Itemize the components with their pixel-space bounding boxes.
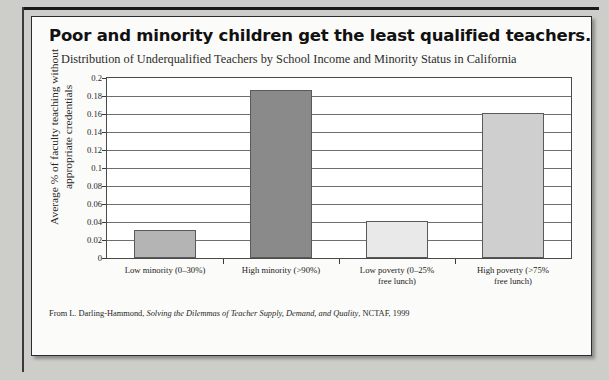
bar bbox=[250, 90, 311, 258]
x-axis-tick-label-line: Low minority (0–30%) bbox=[107, 265, 223, 276]
y-axis-tick-label: 0.14 bbox=[58, 127, 102, 137]
bar bbox=[366, 221, 427, 258]
y-axis-tick-label: 0 bbox=[58, 253, 102, 263]
x-axis-tick-label-line: Low poverty (0–25% bbox=[339, 265, 455, 276]
x-axis-tick-label-line: free lunch) bbox=[455, 276, 571, 287]
y-axis-tick-label: 0.16 bbox=[58, 109, 102, 119]
x-axis-tick-label-line: High poverty (>75% bbox=[455, 265, 571, 276]
y-axis-tick-label: 0.06 bbox=[58, 199, 102, 209]
gridline bbox=[107, 96, 571, 97]
page-canvas: Poor and minority children get the least… bbox=[0, 0, 609, 380]
y-axis-tick-label: 0.2 bbox=[58, 73, 102, 83]
bar bbox=[482, 113, 543, 258]
bar bbox=[134, 230, 195, 258]
plot-area bbox=[106, 77, 572, 259]
y-axis-tick-label: 0.18 bbox=[58, 91, 102, 101]
source-citation: From L. Darling-Hammond, Solving the Dil… bbox=[49, 309, 410, 318]
x-axis-tick-label: High poverty (>75%free lunch) bbox=[455, 265, 571, 288]
x-axis-tick-label: Low minority (0–30%) bbox=[107, 265, 223, 276]
figure-box: Poor and minority children get the least… bbox=[31, 16, 592, 356]
x-axis-tick-label: Low poverty (0–25%free lunch) bbox=[339, 265, 455, 288]
source-suffix: , NCTAF, 1999 bbox=[358, 309, 409, 318]
x-axis-tick-label-line: High minority (>90%) bbox=[223, 265, 339, 276]
source-title: Solving the Dilemmas of Teacher Supply, … bbox=[146, 309, 358, 318]
y-axis-tick-label: 0.02 bbox=[58, 235, 102, 245]
source-prefix: From L. Darling-Hammond, bbox=[49, 309, 146, 318]
x-axis-tick-mark bbox=[223, 259, 224, 264]
x-axis-tick-mark bbox=[339, 259, 340, 264]
bar-chart: Average % of faculty teaching without ap… bbox=[32, 17, 593, 357]
y-axis-tick-label: 0.12 bbox=[58, 145, 102, 155]
x-axis-tick-label-line: free lunch) bbox=[339, 276, 455, 287]
page-left-rule bbox=[22, 7, 24, 372]
y-axis-tick-label: 0.08 bbox=[58, 181, 102, 191]
x-axis-tick-label: High minority (>90%) bbox=[223, 265, 339, 276]
y-axis-tick-label: 0.1 bbox=[58, 163, 102, 173]
y-axis-tick-label: 0.04 bbox=[58, 217, 102, 227]
page-top-rule bbox=[22, 7, 599, 10]
x-axis-tick-mark bbox=[455, 259, 456, 264]
